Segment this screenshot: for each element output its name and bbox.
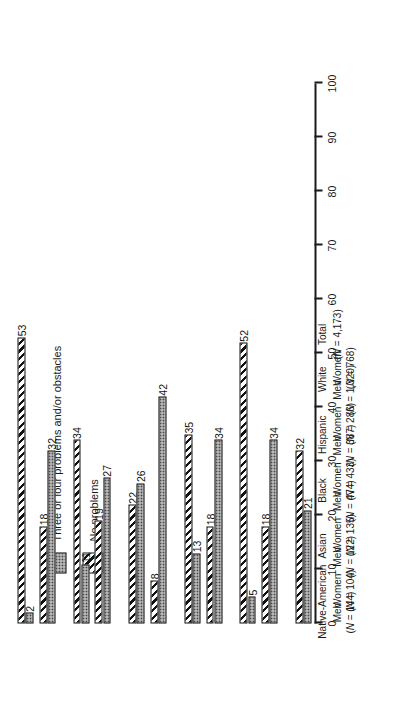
bar-dotted: 42	[158, 396, 166, 623]
bar-hatched: 34	[73, 439, 81, 623]
bar-value-label: 32	[45, 438, 57, 450]
bar-value-label: 34	[70, 427, 82, 439]
category-axis-labels: Men(N = 144)Women(N = 104)Men(N = 122)Wo…	[330, 83, 400, 623]
bar-dotted: 11	[81, 564, 89, 623]
category-n-label: (N = 4,173)	[330, 309, 343, 359]
bar-value-label: 21	[301, 497, 313, 509]
bar-hatched: 18	[206, 526, 214, 623]
bar-hatched: 53	[17, 337, 25, 623]
bar-hatched: 18	[261, 526, 269, 623]
bar-dotted: 21	[303, 510, 311, 623]
plot-area: 0102030405060708090100 53218323411192722…	[14, 83, 314, 623]
bar-hatched: 22	[128, 504, 136, 623]
axis-tick-mark	[314, 189, 322, 191]
axis-tick-mark	[314, 135, 322, 137]
bar-value-label: 11	[79, 552, 91, 563]
bar-value-label: 2	[23, 605, 35, 611]
bar-value-label: 32	[293, 438, 305, 450]
axis-tick-mark	[314, 297, 322, 299]
bar-value-label: 27	[100, 465, 112, 477]
axis-tick-mark	[314, 243, 322, 245]
bar-dotted: 32	[47, 450, 55, 623]
category-group-label-black: Black	[316, 478, 327, 502]
bar-value-label: 52	[237, 330, 249, 342]
category-group-label-hispanic: Hispanic	[316, 415, 327, 453]
bar-hatched: 32	[295, 450, 303, 623]
axis-tick-mark	[314, 81, 322, 83]
category-group-label-native-american: Native-American	[316, 564, 327, 638]
bar-dotted: 26	[136, 483, 144, 623]
bar-value-label: 26	[134, 470, 146, 482]
axis-tick-mark	[314, 405, 322, 407]
bar-value-label: 35	[182, 421, 194, 433]
bar-hatched: 35	[184, 434, 192, 623]
bar-value-label: 13	[190, 540, 202, 552]
bar-value-label: 53	[15, 324, 27, 336]
axis-tick-mark	[314, 351, 322, 353]
bar-dotted: 5	[248, 596, 256, 623]
bar-hatched: 18	[39, 526, 47, 623]
axis-tick-mark	[314, 513, 322, 515]
category-n-label: (N = 768)	[343, 347, 356, 389]
bar-value-label: 34	[212, 427, 224, 439]
rotated-chart-container: Three or four problems and/or obstacles …	[0, 0, 407, 723]
category-group-label-asian: Asian	[316, 533, 327, 558]
bar-dotted: 27	[103, 477, 111, 623]
category-label-total: (N = 4,173)	[330, 309, 343, 359]
bar-value-label: 5	[246, 589, 258, 595]
bar-hatched: 19	[94, 520, 102, 623]
chart-canvas: Three or four problems and/or obstacles …	[0, 0, 407, 723]
bar-value-label: 42	[156, 384, 168, 396]
bar-value-label: 34	[267, 427, 279, 439]
bar-hatched: 8	[150, 580, 158, 623]
category-group-label-white: White	[316, 366, 327, 392]
bar-hatched: 52	[239, 342, 247, 623]
axis-tick-mark	[314, 459, 322, 461]
bar-dotted: 34	[269, 439, 277, 623]
category-group-label-total: Total	[316, 323, 327, 344]
bar-dotted: 34	[214, 439, 222, 623]
bar-dotted: 13	[192, 553, 200, 623]
bar-dotted: 2	[25, 612, 33, 623]
